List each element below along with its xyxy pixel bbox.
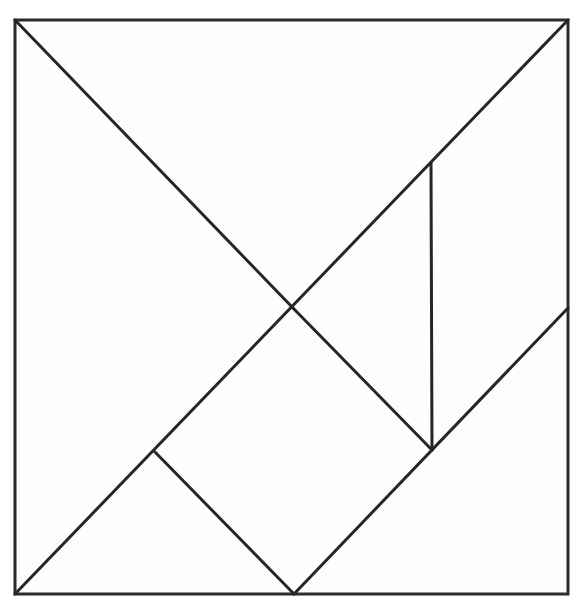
- tangram-svg: [0, 0, 586, 606]
- vertical-edge: [431, 163, 432, 450]
- tangram-diagram: [0, 0, 586, 606]
